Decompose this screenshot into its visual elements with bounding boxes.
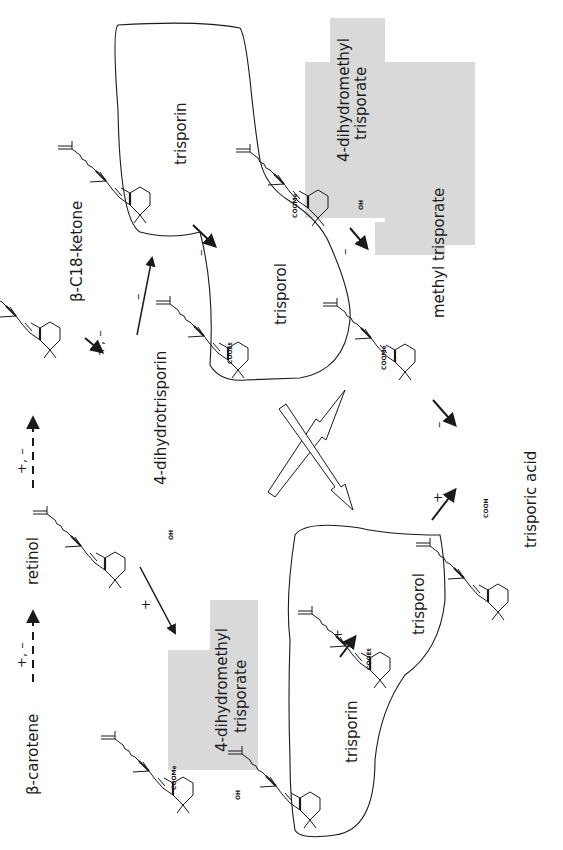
label-trisporin-bottom: trisporin: [343, 700, 361, 763]
sub-coome-top: COOMe: [291, 193, 298, 218]
trisporic-acid-structure: [416, 538, 508, 620]
label-trisporin-top: trisporin: [172, 102, 190, 165]
sign-dihydrotrisporin-to-trisporin: –: [130, 294, 145, 301]
sub-cooh: COOH: [482, 498, 489, 518]
sign-trisporin-to-trisporol-bottom: +: [330, 629, 345, 640]
sign-retinol-to-ketone: +, –: [14, 448, 29, 474]
sub-cooet-top: COOEt: [226, 342, 233, 364]
methyl-trisporate-structure: [323, 298, 415, 380]
sign-dihydrotrisporin-to-dmt: +: [138, 599, 153, 610]
label-dmt-bottom-line1: 4-dihydromethyl: [213, 628, 231, 752]
sub-coome-bottom: COOMe: [170, 765, 177, 790]
label-beta-carotene: β-carotene: [24, 714, 42, 795]
sub-coome-mid: COOMe: [380, 345, 387, 370]
pathway-diagram: [0, 0, 563, 850]
trisporol-bottom-structure: [298, 606, 390, 688]
label-dmt-bottom-line2: trisporate: [232, 660, 250, 733]
dihydrotrisporin-structure: [33, 506, 125, 588]
trisporin-to-trisporol-arrow: [193, 225, 215, 246]
sub-oh-dihydrotrisporin: OH: [167, 530, 174, 540]
label-trisporic-acid: trisporic acid: [522, 451, 540, 548]
sign-dmt-to-methyl-trisporate: –: [337, 249, 352, 256]
trisporin-trisporol-bottom-outline: [288, 525, 445, 836]
sub-oh-dmt-bottom: OH: [234, 790, 241, 800]
label-retinol: retinol: [24, 537, 42, 585]
dmt-to-methyl-trisporate-arrow: [350, 228, 367, 248]
sign-ketone-to-dihydrotrisporin: +, –: [92, 330, 107, 356]
label-dmt-top-line1: 4-dihydromethyl: [335, 38, 353, 162]
sign-carotene-to-retinol: +, –: [14, 642, 29, 668]
label-dmt-top-line2: trisporate: [352, 67, 370, 140]
label-beta-c18-ketone: β-C18-ketone: [68, 201, 86, 302]
crossed-hollow-arrows: [268, 390, 353, 510]
sub-oh-dmt-top: OH: [357, 200, 364, 210]
sub-cooet-bottom: COOEt: [365, 648, 372, 670]
label-trisporol-bottom: trisporol: [410, 573, 428, 635]
beta-c18-ketone-structure: [0, 276, 60, 358]
sign-methyl-trisporate-to-acid: –: [431, 422, 446, 429]
label-dihydrotrisporin: 4-dihydrotrisporin: [152, 351, 170, 485]
sign-trisporol-to-acid: +: [430, 492, 445, 503]
label-trisporol-top: trisporol: [272, 263, 290, 325]
sign-trisporin-to-trisporol: –: [193, 250, 208, 257]
label-methyl-trisporate: methyl trisporate: [430, 188, 448, 318]
